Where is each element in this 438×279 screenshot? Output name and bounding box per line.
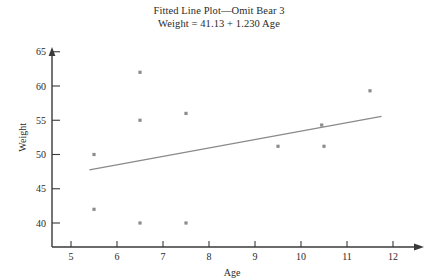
x-axis-tick-label: 11	[342, 251, 352, 262]
scatter-data-point	[138, 221, 141, 224]
y-axis-tick-label: 40	[36, 218, 46, 229]
x-axis-tick-label: 7	[161, 251, 166, 262]
scatter-data-point	[322, 145, 325, 148]
scatter-data-point	[320, 123, 323, 126]
scatter-data-point	[184, 112, 187, 115]
y-axis-tick-label: 45	[36, 183, 46, 194]
x-axis-tick-label: 12	[388, 251, 398, 262]
y-axis-tick-label: 55	[36, 115, 46, 126]
scatter-data-point	[92, 153, 95, 156]
scatter-data-point	[138, 119, 141, 122]
x-axis-tick-label: 10	[296, 251, 306, 262]
y-axis-title: Weight	[17, 123, 28, 152]
y-axis-tick-label: 60	[36, 81, 46, 92]
x-axis-tick-label: 8	[207, 251, 212, 262]
scatter-data-point	[138, 71, 141, 74]
x-axis-tick-label: 5	[69, 251, 74, 262]
x-axis-tick-label: 9	[253, 251, 258, 262]
fitted-regression-line	[89, 116, 381, 169]
scatter-plot-canvas: 40455055606556789101112AgeWeight	[0, 0, 438, 279]
x-axis-tick-label: 6	[115, 251, 120, 262]
scatter-data-point	[92, 208, 95, 211]
fitted-line-plot-figure: Fitted Line Plot—Omit Bear 3 Weight = 41…	[0, 0, 438, 279]
x-axis-arrow-icon	[414, 244, 424, 251]
scatter-data-point	[276, 145, 279, 148]
y-axis-tick-label: 65	[36, 46, 46, 57]
x-axis-title: Age	[224, 267, 241, 278]
scatter-data-point	[184, 221, 187, 224]
scatter-data-point	[368, 89, 371, 92]
y-axis-tick-label: 50	[36, 149, 46, 160]
